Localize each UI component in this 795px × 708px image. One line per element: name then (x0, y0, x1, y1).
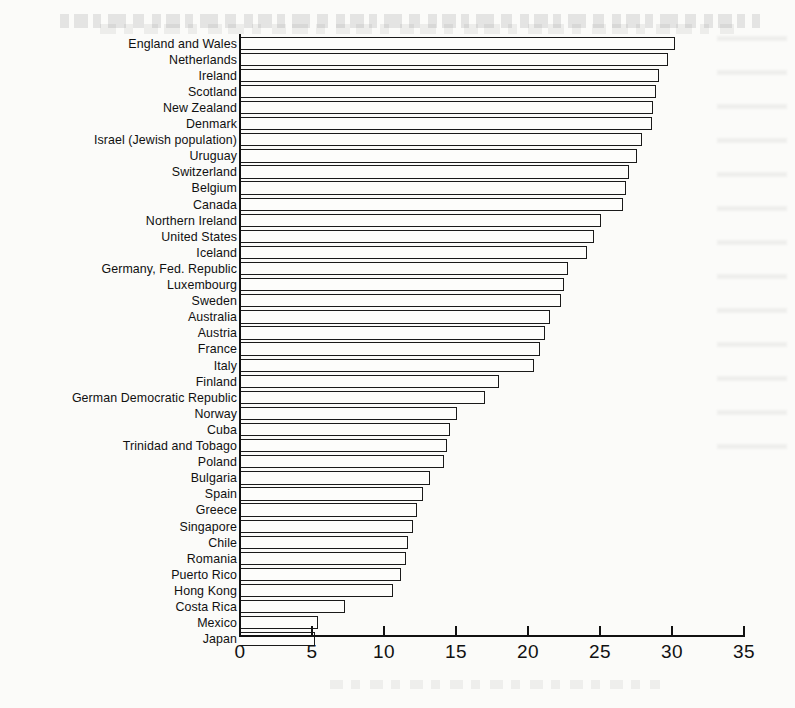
bar-category-label: France (0, 341, 237, 357)
bar-category-label: Italy (0, 358, 237, 374)
x-axis-tick (671, 626, 673, 636)
bar-category-label: Singapore (0, 519, 237, 535)
bar-category-label: Iceland (0, 245, 237, 261)
bar-row: Bulgaria (0, 470, 795, 486)
bar-category-label: Romania (0, 551, 237, 567)
x-axis-tick-label: 5 (292, 641, 332, 663)
bar-category-label: Bulgaria (0, 470, 237, 486)
bar (240, 471, 430, 484)
bar-category-label: New Zealand (0, 100, 237, 116)
bar (240, 181, 626, 194)
y-axis-line (239, 34, 241, 636)
bar (240, 568, 401, 581)
bar (240, 487, 423, 500)
bar-category-label: Uruguay (0, 148, 237, 164)
bar (240, 214, 601, 227)
bar-category-label: Japan (0, 631, 237, 647)
bar (240, 310, 550, 323)
bar (240, 407, 457, 420)
bar (240, 278, 564, 291)
bar-category-label: Denmark (0, 116, 237, 132)
x-axis-tick (383, 626, 385, 636)
bar-category-label: Hong Kong (0, 583, 237, 599)
bar-row: Puerto Rico (0, 567, 795, 583)
bar-category-label: Northern Ireland (0, 213, 237, 229)
horizontal-bar-chart: England and WalesNetherlandsIrelandScotl… (0, 0, 795, 708)
x-axis-tick-label: 0 (220, 641, 260, 663)
bar-row: Costa Rica (0, 599, 795, 615)
bar-category-label: Germany, Fed. Republic (0, 261, 237, 277)
bar-category-label: Mexico (0, 615, 237, 631)
bar-category-label: Luxembourg (0, 277, 237, 293)
x-axis-tick (311, 626, 313, 636)
bar-category-label: United States (0, 229, 237, 245)
bar-category-label: England and Wales (0, 36, 237, 52)
bar (240, 149, 637, 162)
bar (240, 246, 587, 259)
x-axis-line (239, 635, 745, 637)
bar (240, 375, 499, 388)
bar-row: Greece (0, 502, 795, 518)
bar-row: Denmark (0, 116, 795, 132)
bar-category-label: Cuba (0, 422, 237, 438)
bar (240, 69, 659, 82)
bar (240, 326, 545, 339)
bar-category-label: Poland (0, 454, 237, 470)
bar-category-label: Scotland (0, 84, 237, 100)
bar-row: Austria (0, 325, 795, 341)
bar-category-label: Australia (0, 309, 237, 325)
bar-row: Mexico (0, 615, 795, 631)
bar (240, 552, 406, 565)
bar-row: England and Wales (0, 36, 795, 52)
bar (240, 53, 668, 66)
x-axis-tick-label: 20 (508, 641, 548, 663)
scanned-page: England and WalesNetherlandsIrelandScotl… (0, 0, 795, 708)
bar-row: Germany, Fed. Republic (0, 261, 795, 277)
bar-row: Switzerland (0, 164, 795, 180)
bar (240, 520, 413, 533)
bar-category-label: Austria (0, 325, 237, 341)
bar-category-label: Greece (0, 502, 237, 518)
bar (240, 85, 656, 98)
bar-category-label: Trinidad and Tobago (0, 438, 237, 454)
bar-row: New Zealand (0, 100, 795, 116)
bar-category-label: Puerto Rico (0, 567, 237, 583)
bar-row: Norway (0, 406, 795, 422)
bar (240, 503, 417, 516)
bar (240, 423, 450, 436)
bar-category-label: Switzerland (0, 164, 237, 180)
bar-category-label: Spain (0, 486, 237, 502)
bar-row: Iceland (0, 245, 795, 261)
bar-row: Spain (0, 486, 795, 502)
bar (240, 584, 393, 597)
bar-row: Ireland (0, 68, 795, 84)
bar (240, 536, 408, 549)
bar-row: Australia (0, 309, 795, 325)
bar-category-label: Israel (Jewish population) (0, 132, 237, 148)
bar-category-label: Netherlands (0, 52, 237, 68)
bar-category-label: Finland (0, 374, 237, 390)
x-axis-tick-label: 30 (652, 641, 692, 663)
bar-row: Cuba (0, 422, 795, 438)
bar-row: Sweden (0, 293, 795, 309)
bar-category-label: Norway (0, 406, 237, 422)
bar-row: United States (0, 229, 795, 245)
bar-category-label: German Democratic Republic (0, 390, 237, 406)
bar-row: Hong Kong (0, 583, 795, 599)
bar-category-label: Ireland (0, 68, 237, 84)
bar-row: Singapore (0, 519, 795, 535)
bar-category-label: Belgium (0, 180, 237, 196)
bar-row: Scotland (0, 84, 795, 100)
x-axis-tick-label: 15 (436, 641, 476, 663)
bar (240, 359, 534, 372)
bar (240, 117, 652, 130)
x-axis-tick (743, 626, 745, 636)
bar (240, 600, 345, 613)
bar (240, 439, 447, 452)
x-axis-tick-label: 35 (724, 641, 764, 663)
x-axis-tick (455, 626, 457, 636)
x-axis-tick (527, 626, 529, 636)
bar-row: France (0, 341, 795, 357)
bar-row: Canada (0, 197, 795, 213)
x-axis-tick-label: 10 (364, 641, 404, 663)
